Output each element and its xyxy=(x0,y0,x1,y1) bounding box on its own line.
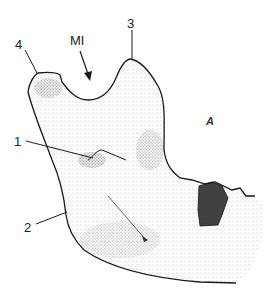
arrow-mi-icon xyxy=(84,71,92,81)
foramen-shading xyxy=(78,152,106,168)
condyle-shading xyxy=(34,78,62,98)
label-3: 3 xyxy=(127,16,134,31)
ridge-shading xyxy=(136,130,164,170)
label-a: A xyxy=(205,115,214,127)
leader-2 xyxy=(36,212,67,224)
mandible-illustration: 4 MI 3 1 2 A xyxy=(0,0,273,306)
label-1: 1 xyxy=(14,134,21,149)
leader-4 xyxy=(25,50,37,73)
arrow-mi-shaft xyxy=(80,51,88,74)
label-4: 4 xyxy=(15,37,22,52)
label-mi: MI xyxy=(70,33,84,48)
label-2: 2 xyxy=(24,220,31,235)
